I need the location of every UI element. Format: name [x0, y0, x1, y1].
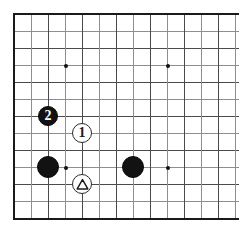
board-edge-bottom [13, 218, 239, 220]
grid-line-vertical-5 [99, 14, 100, 218]
grid-line-vertical-11 [201, 14, 202, 218]
grid-line-vertical-13 [235, 14, 236, 218]
grid-line-vertical-6 [116, 14, 117, 218]
black-stone-lower-left[interactable] [37, 156, 59, 178]
black-stone-lower-right[interactable] [122, 156, 144, 178]
grid-line-vertical-1 [31, 14, 32, 218]
white-stone-numbered-1[interactable]: 1 [72, 123, 92, 143]
star-point-bottom-right [166, 166, 170, 170]
star-point-top-right [166, 64, 170, 68]
stone-move-number: 1 [79, 126, 86, 140]
black-stone-numbered-2[interactable]: 2 [38, 106, 58, 126]
grid-line-vertical-7 [133, 14, 134, 218]
go-board-diagram: 21 [0, 0, 239, 230]
grid-line-vertical-12 [218, 14, 219, 218]
board-edge-left [13, 13, 15, 220]
triangle-mark-icon [76, 178, 89, 191]
grid-line-vertical-8 [150, 14, 151, 218]
board-edge-top [13, 13, 239, 15]
grid-line-vertical-9 [167, 14, 168, 218]
star-point-bottom-left [64, 166, 68, 170]
grid-line-vertical-10 [184, 14, 185, 218]
white-stone-triangle-marked[interactable] [72, 174, 92, 194]
grid-line-vertical-3 [65, 14, 66, 218]
goban-grid: 21 [0, 0, 239, 230]
stone-move-number: 2 [45, 109, 52, 123]
star-point-top-left [64, 64, 68, 68]
